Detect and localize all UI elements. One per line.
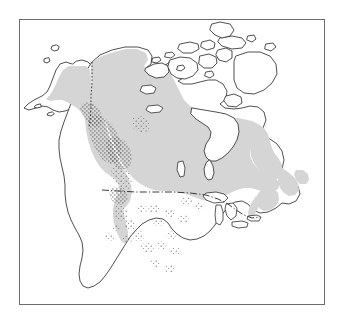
southampton-island <box>224 94 242 107</box>
kodiak-island <box>47 112 54 116</box>
baffin-island <box>234 52 277 94</box>
stipple-colorado <box>140 243 154 253</box>
bathurst-island <box>201 40 215 50</box>
alaska-north-island <box>51 45 59 51</box>
lake-huron <box>225 203 237 220</box>
melville-island <box>178 42 199 53</box>
lake-erie <box>232 221 248 228</box>
lake-michigan <box>215 205 223 225</box>
stipple-patch-h <box>150 259 161 267</box>
stipple-wyoming <box>132 231 145 241</box>
stipple-patch-f <box>156 241 167 249</box>
prince-of-wales-island <box>199 54 217 68</box>
somerset-island <box>216 48 232 62</box>
ellesmere-island <box>210 22 234 38</box>
stipple-patch-g <box>170 247 181 255</box>
map-frame <box>19 19 325 305</box>
arctic-islet-b <box>152 57 161 63</box>
arctic-islet-a <box>165 52 175 58</box>
figure-container <box>0 0 339 321</box>
north-america-range-map <box>20 20 324 304</box>
arctic-islet-e <box>247 35 256 42</box>
stipple-patch-i <box>164 265 175 273</box>
alaska-small-island <box>44 58 50 63</box>
arctic-islet-f <box>265 43 276 51</box>
great-slave-lake <box>146 105 163 113</box>
arctic-islet-d <box>205 71 214 78</box>
